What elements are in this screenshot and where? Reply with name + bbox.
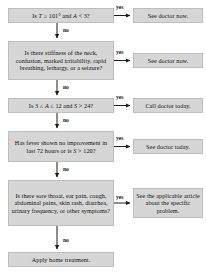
terminal-box-home-treatment: Apply home treatment. (8, 252, 114, 267)
outcome-box-2-text: See doctor now. (136, 57, 200, 65)
outcome-box-1: See doctor now. (133, 8, 203, 23)
outcome-box-4-text: See doctor today. (136, 143, 200, 151)
edge-label-no-2: no (63, 84, 69, 90)
outcome-box-5-text: See the applicable article about the spe… (136, 192, 200, 215)
outcome-box-3: Call doctor today. (133, 98, 203, 113)
edge-label-yes-1: yes (116, 4, 123, 10)
edge-label-yes-4: yes (116, 135, 123, 141)
decision-box-5-text: Is there sore throat, ear pain, cough, a… (11, 192, 111, 215)
edge-label-no-5: no (63, 237, 69, 243)
decision-box-3-text: Is 3 ≤ A ≤ 12 and S > 24? (11, 102, 111, 110)
terminal-box-home-treatment-text: Apply home treatment. (11, 256, 111, 264)
decision-box-5: Is there sore throat, ear pain, cough, a… (8, 180, 114, 226)
edge-label-no-4: no (63, 166, 69, 172)
decision-box-4: Has fever shown no improvement in last 7… (8, 131, 114, 162)
decision-box-2: Is there stiffness of the neck, confusio… (8, 41, 114, 80)
decision-box-3: Is 3 ≤ A ≤ 12 and S > 24? (8, 98, 114, 113)
outcome-box-4: See doctor today. (133, 139, 203, 154)
edge-label-yes-2: yes (116, 49, 123, 55)
edge-label-no-3: no (63, 117, 69, 123)
decision-box-1-text: Is T ≥ 101° and A < 3? (11, 12, 111, 20)
flowchart: Is T ≥ 101° and A < 3? Is there stiffnes… (0, 0, 206, 277)
decision-box-4-text: Has fever shown no improvement in last 7… (11, 139, 111, 154)
decision-box-2-text: Is there stiffness of the neck, confusio… (11, 49, 111, 72)
edge-label-yes-3: yes (116, 94, 123, 100)
edge-label-yes-5: yes (116, 194, 123, 200)
outcome-box-1-text: See doctor now. (136, 12, 200, 20)
decision-box-1: Is T ≥ 101° and A < 3? (8, 8, 114, 23)
edge-label-no-1: no (63, 27, 69, 33)
outcome-box-5: See the applicable article about the spe… (133, 188, 203, 218)
outcome-box-2: See doctor now. (133, 53, 203, 68)
outcome-box-3-text: Call doctor today. (136, 102, 200, 110)
